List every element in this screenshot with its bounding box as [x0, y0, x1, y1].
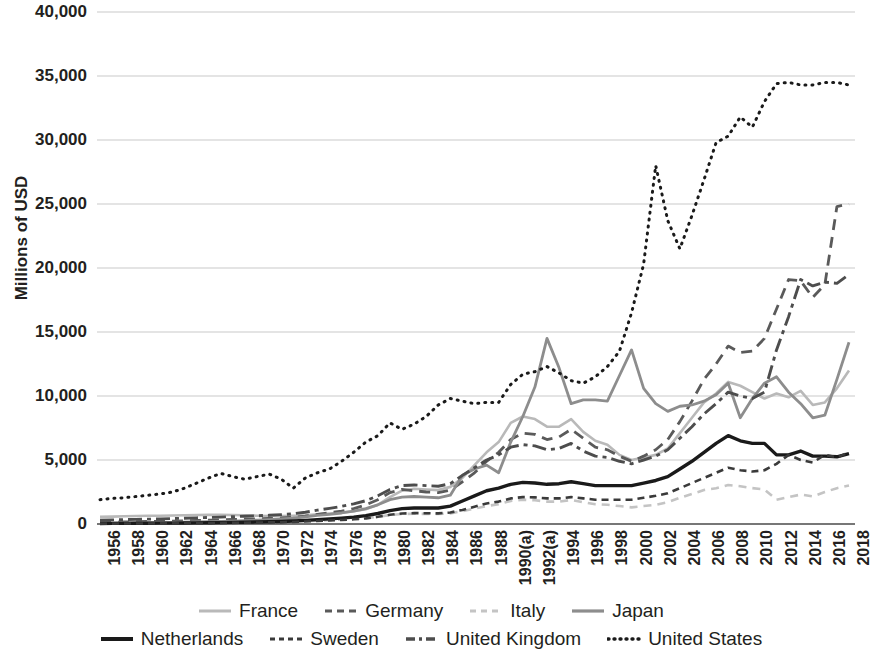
legend-item[interactable]: Japan: [571, 600, 664, 622]
series-line-netherlands: [100, 436, 849, 524]
x-axis-tick-label: 1990(a): [517, 530, 535, 585]
y-axis-tick-label: 5,000: [44, 450, 87, 470]
series-line-united-kingdom: [100, 274, 849, 520]
legend-label: Netherlands: [141, 628, 243, 650]
plot-area: [97, 0, 855, 540]
y-axis-tick-label: 25,000: [35, 194, 87, 214]
x-axis-tick-label: 2008: [734, 530, 752, 566]
legend-swatch-icon: [607, 632, 641, 646]
y-axis-tick-label: 30,000: [35, 130, 87, 150]
legend-item[interactable]: Italy: [469, 600, 545, 622]
x-axis-tick-label: 2012: [783, 530, 801, 566]
y-axis-tick-label: 35,000: [35, 66, 87, 86]
x-axis-tick-label: 1978: [372, 530, 390, 566]
legend-swatch-icon: [324, 604, 358, 618]
line-chart-svg: [97, 0, 855, 540]
x-axis-tick-label: 1970: [275, 530, 293, 566]
x-axis-tick-label: 1984: [444, 530, 462, 566]
series-line-sweden: [100, 452, 849, 523]
legend-item[interactable]: United States: [607, 628, 762, 650]
x-axis-tick-label: 2004: [686, 530, 704, 566]
legend-swatch-icon: [405, 632, 439, 646]
legend-swatch-icon: [198, 604, 232, 618]
x-axis-tick-label: 1998: [613, 530, 631, 566]
x-axis-tick-label: 2018: [855, 530, 873, 566]
legend-item[interactable]: France: [198, 600, 298, 622]
y-axis-tick-label: 10,000: [35, 386, 87, 406]
legend-label: France: [239, 600, 298, 622]
y-axis-tick-label: 15,000: [35, 322, 87, 342]
x-axis-tick-label: 1982: [420, 530, 438, 566]
x-axis-tick-label: 1976: [348, 530, 366, 566]
x-axis-tick-label: 1968: [251, 530, 269, 566]
legend-item[interactable]: Netherlands: [100, 628, 243, 650]
x-axis-tick-label: 1972: [299, 530, 317, 566]
legend-label: Japan: [612, 600, 664, 622]
y-axis-tick-label: 20,000: [35, 258, 87, 278]
legend-label: Sweden: [310, 628, 379, 650]
x-axis-tick-label: 1964: [203, 530, 221, 566]
x-axis-tick-label: 2006: [710, 530, 728, 566]
y-axis-tick-labels: 40,00035,00030,00025,00020,00015,00010,0…: [0, 0, 97, 540]
x-axis-tick-label: 2002: [662, 530, 680, 566]
x-axis-tick-label: 1974: [323, 530, 341, 566]
legend-row-2: NetherlandsSwedenUnited KingdomUnited St…: [0, 628, 862, 650]
y-axis-tick-label: 0: [78, 514, 87, 534]
x-axis-tick-label: 1994: [565, 530, 583, 566]
legend-label: Germany: [365, 600, 443, 622]
legend-swatch-icon: [269, 632, 303, 646]
x-axis-tick-label: 1966: [227, 530, 245, 566]
x-axis-tick-label: 2010: [758, 530, 776, 566]
legend-swatch-icon: [571, 604, 605, 618]
x-axis-tick-label: 1962: [178, 530, 196, 566]
x-axis-tick-label: 2016: [831, 530, 849, 566]
legend-item[interactable]: Sweden: [269, 628, 379, 650]
chart-legend: FranceGermanyItalyJapan NetherlandsSwede…: [0, 598, 862, 660]
x-axis-tick-label: 1960: [154, 530, 172, 566]
x-axis-tick-label: 1986: [468, 530, 486, 566]
series-line-united-states: [100, 82, 849, 499]
legend-item[interactable]: United Kingdom: [405, 628, 581, 650]
x-axis-tick-label: 1958: [130, 530, 148, 566]
legend-label: United States: [648, 628, 762, 650]
legend-row-1: FranceGermanyItalyJapan: [0, 600, 862, 622]
x-axis-tick-label: 2014: [807, 530, 825, 566]
x-axis-tick-label: 1992(a): [541, 530, 559, 585]
x-axis-tick-label: 1988: [493, 530, 511, 566]
legend-swatch-icon: [100, 632, 134, 646]
legend-swatch-icon: [469, 604, 503, 618]
legend-item[interactable]: Germany: [324, 600, 443, 622]
x-axis-tick-label: 1956: [106, 530, 124, 566]
x-axis-tick-label: 1980: [396, 530, 414, 566]
y-axis-tick-label: 40,000: [35, 2, 87, 22]
x-axis-tick-label: 1996: [589, 530, 607, 566]
series-line-germany: [100, 204, 849, 522]
legend-label: Italy: [510, 600, 545, 622]
x-axis-tick-label: 2000: [638, 530, 656, 566]
legend-label: United Kingdom: [446, 628, 581, 650]
